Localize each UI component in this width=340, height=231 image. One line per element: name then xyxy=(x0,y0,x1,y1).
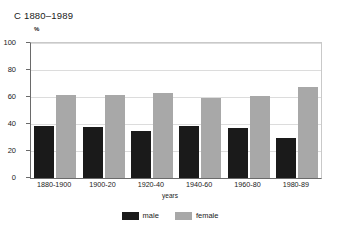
y-axis-tick-label: 60 xyxy=(0,92,16,101)
y-axis-tick-label: 80 xyxy=(0,65,16,74)
legend-item-female: female xyxy=(175,211,219,220)
bar-male-1900-20 xyxy=(83,127,103,178)
bar-female-1920-40 xyxy=(153,93,173,178)
bar-female-1960-80 xyxy=(250,96,270,178)
plot-area xyxy=(30,42,322,179)
y-axis-tick-label: 0 xyxy=(0,173,16,182)
bar-male-1880-1900 xyxy=(34,126,54,178)
bar-group xyxy=(228,43,270,178)
legend-item-male: male xyxy=(122,211,159,220)
x-axis-title: years xyxy=(0,192,340,199)
chart-title: C 1880–1989 xyxy=(14,10,73,21)
bar-male-1980-89 xyxy=(276,138,296,178)
legend-swatch-male xyxy=(122,212,139,220)
bar-female-1940-60 xyxy=(201,98,221,178)
bar-group xyxy=(276,43,318,178)
bar-chart-figure: C 1880–1989 % 020406080100 1880-19001900… xyxy=(0,0,340,231)
chart-legend: malefemale xyxy=(0,211,340,220)
legend-label-male: male xyxy=(143,211,159,220)
x-axis-tick-label: 1960-80 xyxy=(234,180,260,189)
x-axis-tick-label: 1940-60 xyxy=(186,180,212,189)
legend-label-female: female xyxy=(196,211,219,220)
y-axis-tick-label: 100 xyxy=(0,38,16,47)
x-axis-tick-label: 1900-20 xyxy=(89,180,115,189)
bar-male-1940-60 xyxy=(179,126,199,178)
bar-female-1880-1900 xyxy=(56,95,76,178)
bar-group xyxy=(34,43,76,178)
bar-male-1920-40 xyxy=(131,131,151,178)
y-axis-unit-label: % xyxy=(34,26,39,32)
bar-female-1900-20 xyxy=(105,95,125,178)
legend-swatch-female xyxy=(175,212,192,220)
y-axis-tick-label: 40 xyxy=(0,119,16,128)
bar-female-1980-89 xyxy=(298,87,318,178)
bar-group xyxy=(83,43,125,178)
x-axis-tick-label: 1980-89 xyxy=(283,180,309,189)
x-axis-tick-label: 1880-1900 xyxy=(37,180,71,189)
x-axis-tick-label: 1920-40 xyxy=(138,180,164,189)
bar-group xyxy=(131,43,173,178)
bar-male-1960-80 xyxy=(228,128,248,178)
bar-group xyxy=(179,43,221,178)
y-axis-tick-label: 20 xyxy=(0,146,16,155)
